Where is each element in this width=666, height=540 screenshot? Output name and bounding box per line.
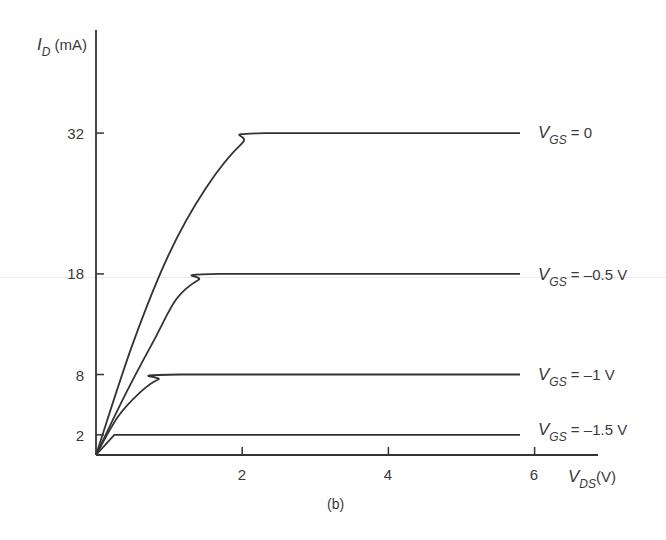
curve-0	[96, 133, 520, 455]
curve-label-value: = –0.5 V	[571, 266, 627, 283]
curve-label-symbol: V	[538, 265, 549, 284]
y-axis-subscript: D	[42, 45, 51, 59]
y-tick-label-8: 8	[54, 368, 84, 383]
curve-label-value: = –1.5 V	[571, 421, 627, 438]
x-axis-symbol: V	[568, 467, 579, 486]
x-axis-subscript: DS	[579, 477, 596, 491]
curve-label-value: = 0	[571, 124, 592, 141]
curve-label-vgs-neg0.5: VGS = –0.5 V	[538, 266, 627, 288]
curve-label-vgs-neg1: VGS = –1 V	[538, 366, 615, 388]
curve-label-vgs-0: VGS = 0	[538, 124, 592, 146]
curve-label-symbol: V	[538, 420, 549, 439]
x-axis-unit: (V)	[596, 468, 616, 485]
y-tick-label-18: 18	[54, 266, 84, 281]
curve-label-symbol: V	[538, 365, 549, 384]
x-tick-label-6: 6	[524, 467, 544, 482]
curve-label-vgs-neg1.5: VGS = –1.5 V	[538, 421, 627, 443]
x-tick-label-4: 4	[378, 467, 398, 482]
x-axis-label: VDS(V)	[568, 468, 616, 490]
figure-caption: (b)	[327, 497, 344, 511]
curve-label-subscript: GS	[549, 275, 566, 289]
curve-label-subscript: GS	[549, 375, 566, 389]
curve-label-symbol: V	[538, 123, 549, 142]
curve-label-subscript: GS	[549, 430, 566, 444]
curve-2	[96, 375, 520, 455]
curve-label-value: = –1 V	[571, 366, 615, 383]
x-tick-label-2: 2	[232, 467, 252, 482]
y-axis-unit: (mA)	[55, 36, 88, 53]
curve-1	[96, 274, 520, 455]
y-tick-label-32: 32	[54, 126, 84, 141]
curves	[96, 133, 520, 455]
axes	[96, 30, 598, 455]
y-axis-label: ID (mA)	[37, 36, 87, 58]
y-tick-label-2: 2	[54, 428, 84, 443]
curve-3	[96, 435, 520, 455]
ticks	[96, 133, 535, 455]
curve-label-subscript: GS	[549, 133, 566, 147]
